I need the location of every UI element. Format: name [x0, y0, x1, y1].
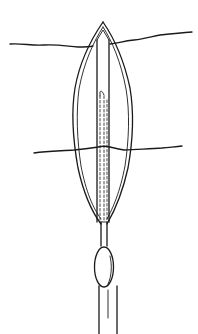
upper-suture [10, 32, 192, 47]
incision-outline [73, 22, 133, 224]
lower-suture [34, 146, 182, 153]
tube-stem [101, 222, 107, 246]
outer-tube [99, 286, 117, 334]
drain-illustration [0, 0, 198, 334]
drain-tube [97, 30, 109, 222]
bulb [95, 247, 114, 287]
illustration-canvas [0, 0, 198, 334]
